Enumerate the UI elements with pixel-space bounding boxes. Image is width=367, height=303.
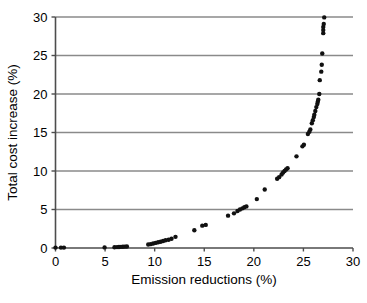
data-point [308, 127, 312, 131]
data-point [169, 237, 173, 241]
data-point [204, 223, 208, 227]
data-point [62, 245, 66, 249]
data-point [316, 98, 320, 102]
data-point [255, 197, 259, 201]
scatter-plot-canvas [0, 0, 367, 303]
data-point [320, 63, 324, 67]
data-point [263, 187, 267, 191]
data-point [244, 204, 248, 208]
gridlines [56, 17, 354, 210]
data-point [322, 22, 326, 26]
data-point [320, 51, 324, 55]
data-point [312, 113, 316, 117]
data-point [302, 143, 306, 147]
data-point [313, 109, 317, 113]
data-point [173, 235, 177, 239]
data-point [285, 166, 289, 170]
data-point [192, 228, 196, 232]
data-point [53, 245, 57, 249]
data-point [125, 244, 129, 248]
data-point [318, 78, 322, 82]
chart-figure: Total cost increase (%) Emission reducti… [0, 0, 367, 303]
data-point [102, 245, 106, 249]
data-point [322, 15, 326, 19]
data-point [294, 154, 298, 158]
data-point [319, 69, 323, 73]
data-point [226, 213, 230, 217]
data-point [317, 92, 321, 96]
